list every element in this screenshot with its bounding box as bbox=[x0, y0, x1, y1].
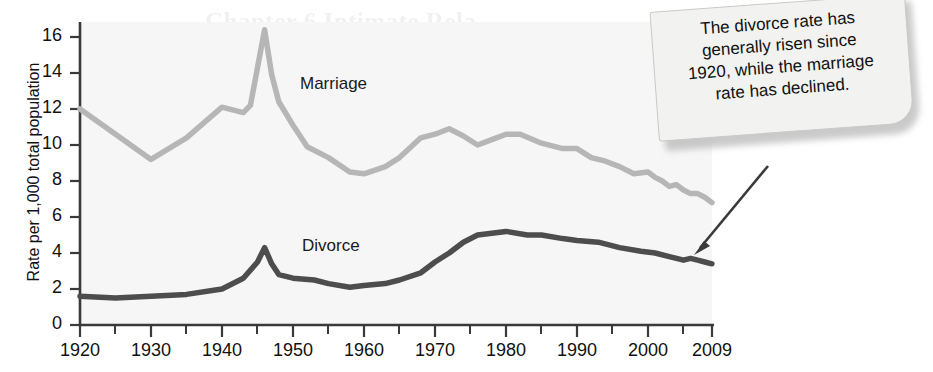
series-label-divorce: Divorce bbox=[302, 236, 360, 256]
x-axis-major-ticks bbox=[80, 325, 712, 337]
x-tick-label-2000: 2000 bbox=[618, 340, 678, 361]
y-tick-label-16: 16 bbox=[28, 25, 62, 46]
x-tick-label-1970: 1970 bbox=[405, 340, 465, 361]
x-tick-label-1920: 1920 bbox=[50, 340, 110, 361]
series-label-marriage: Marriage bbox=[300, 74, 367, 94]
y-tick-label-10: 10 bbox=[28, 133, 62, 154]
series-line-marriage bbox=[80, 30, 712, 203]
x-axis-minor-ticks bbox=[115, 325, 683, 334]
y-axis-ticks bbox=[70, 37, 80, 325]
y-tick-label-4: 4 bbox=[28, 241, 62, 262]
x-tick-label-1990: 1990 bbox=[547, 340, 607, 361]
x-tick-label-1980: 1980 bbox=[476, 340, 536, 361]
annotation-callout: The divorce rate has generally risen sin… bbox=[650, 0, 929, 172]
x-tick-label-1950: 1950 bbox=[263, 340, 323, 361]
callout-box: The divorce rate has generally risen sin… bbox=[650, 0, 915, 142]
x-tick-label-1960: 1960 bbox=[334, 340, 394, 361]
series-line-divorce bbox=[80, 231, 712, 298]
x-tick-label-2009: 2009 bbox=[682, 340, 742, 361]
y-tick-label-0: 0 bbox=[28, 313, 62, 334]
chart-figure: Chapter 6 Intimate Rela tionships in the… bbox=[0, 0, 933, 372]
x-tick-label-1940: 1940 bbox=[192, 340, 252, 361]
y-tick-label-12: 12 bbox=[28, 97, 62, 118]
callout-text: The divorce rate has generally risen sin… bbox=[663, 4, 897, 109]
y-tick-label-8: 8 bbox=[28, 169, 62, 190]
y-tick-label-14: 14 bbox=[28, 61, 62, 82]
callout-arrow bbox=[694, 166, 768, 255]
x-tick-label-1930: 1930 bbox=[121, 340, 181, 361]
y-tick-label-6: 6 bbox=[28, 205, 62, 226]
y-tick-label-2: 2 bbox=[28, 277, 62, 298]
